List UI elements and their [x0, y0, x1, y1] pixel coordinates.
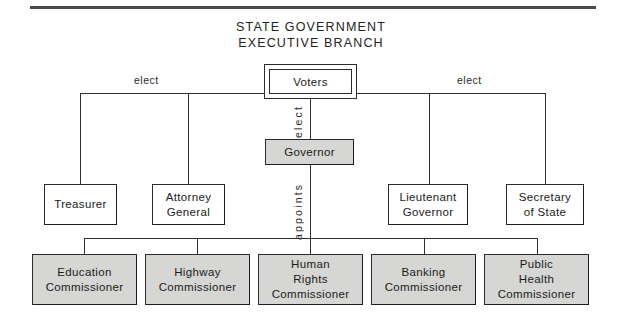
- node-education-commissioner: Education Commissioner: [32, 254, 137, 305]
- node-lieutenant-governor: Lieutenant Governor: [388, 184, 468, 225]
- connector-bus-to-secretary-of-state: [545, 93, 546, 184]
- connector-bus-to-attorney-general: [188, 93, 189, 184]
- node-public-health-commissioner: Public Health Commissioner: [484, 254, 589, 305]
- connector-governor-to-commissioners: [310, 165, 311, 254]
- node-highway-commissioner: Highway Commissioner: [145, 254, 250, 305]
- node-banking-commissioner: Banking Commissioner: [371, 254, 476, 305]
- connector-bus-to-lieutenant-governor: [429, 93, 430, 184]
- chart-title-line-2: EXECUTIVE BRANCH: [0, 35, 622, 51]
- bus-line-appoints: [84, 238, 538, 239]
- connector-bus-to-banking-commissioner: [424, 238, 425, 254]
- node-voters: Voters: [264, 64, 357, 99]
- edge-label-elect-right: elect: [457, 74, 482, 86]
- bus-line-elect-left: [80, 93, 265, 94]
- connector-bus-to-education-commissioner: [84, 238, 85, 254]
- chart-title-line-1: STATE GOVERNMENT: [0, 19, 622, 35]
- org-chart-diagram: STATE GOVERNMENT EXECUTIVE BRANCH Voters…: [0, 0, 622, 330]
- chart-title: STATE GOVERNMENT EXECUTIVE BRANCH: [0, 19, 622, 51]
- node-human-rights-commissioner: Human Rights Commissioner: [258, 254, 363, 305]
- node-treasurer: Treasurer: [44, 184, 117, 225]
- node-attorney-general: Attorney General: [152, 184, 225, 225]
- node-governor: Governor: [265, 139, 354, 165]
- edge-label-appoints: appoints: [292, 178, 304, 240]
- connector-bus-to-public-health-commissioner: [537, 238, 538, 254]
- connector-bus-to-highway-commissioner: [197, 238, 198, 254]
- edge-label-elect-center: elect: [292, 102, 304, 138]
- connector-bus-to-treasurer: [80, 93, 81, 184]
- bus-line-elect-right: [356, 93, 546, 94]
- edge-label-elect-left: elect: [134, 74, 159, 86]
- node-voters-label: Voters: [269, 69, 352, 94]
- node-secretary-of-state: Secretary of State: [506, 184, 584, 225]
- connector-voters-to-governor: [310, 99, 311, 139]
- top-divider-rule: [30, 6, 596, 9]
